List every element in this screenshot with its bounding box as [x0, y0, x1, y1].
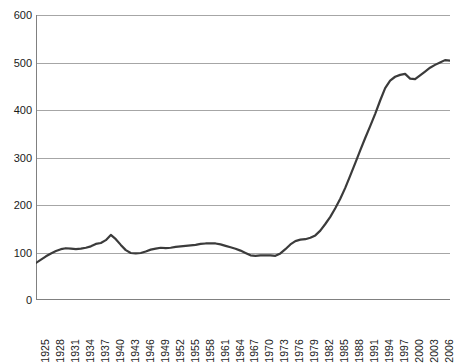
x-tick-label: 1928 [55, 339, 66, 363]
plot-area [36, 15, 450, 300]
y-tick-label: 0 [2, 295, 32, 306]
x-tick-label: 1976 [294, 339, 305, 363]
x-tick-label: 1967 [249, 339, 260, 363]
y-tick-label: 600 [2, 10, 32, 21]
y-tick-label: 100 [2, 247, 32, 258]
x-tick-label: 1991 [369, 339, 380, 363]
x-tick-label: 1952 [175, 339, 186, 363]
x-tick-label: 2003 [429, 339, 440, 363]
x-tick-label: 1931 [70, 339, 81, 363]
x-tick-label: 1949 [160, 339, 171, 363]
x-tick-label: 1982 [324, 339, 335, 363]
x-tick-label: 1964 [235, 339, 246, 363]
x-tick-label: 2000 [414, 339, 425, 363]
x-tick-label: 2006 [444, 339, 455, 363]
x-tick-label: 1958 [205, 339, 216, 363]
x-tick-label: 1946 [145, 339, 156, 363]
y-tick-label: 500 [2, 57, 32, 68]
x-tick-label: 1955 [190, 339, 201, 363]
y-tick-label: 200 [2, 200, 32, 211]
x-tick-label: 1988 [354, 339, 365, 363]
x-tick-label: 1940 [115, 339, 126, 363]
x-tick-label: 1934 [85, 339, 96, 363]
x-tick-label: 1961 [220, 339, 231, 363]
x-tick-label: 1937 [100, 339, 111, 363]
x-tick-label: 1997 [399, 339, 410, 363]
x-tick-label: 1943 [130, 339, 141, 363]
x-tick-label: 1973 [279, 339, 290, 363]
plot-svg [36, 15, 450, 300]
x-tick-label: 1970 [264, 339, 275, 363]
x-tick-label: 1985 [339, 339, 350, 363]
y-tick-label: 300 [2, 152, 32, 163]
x-tick-label: 1994 [384, 339, 395, 363]
gridlines [36, 16, 450, 254]
x-tick-label: 1925 [40, 339, 51, 363]
x-tick-label: 1979 [309, 339, 320, 363]
y-tick-label: 400 [2, 105, 32, 116]
x-axis-labels: 1925192819311934193719401943194619491952… [36, 301, 450, 340]
y-axis-labels: 0100200300400500600 [0, 0, 32, 340]
data-series-line [36, 60, 450, 263]
